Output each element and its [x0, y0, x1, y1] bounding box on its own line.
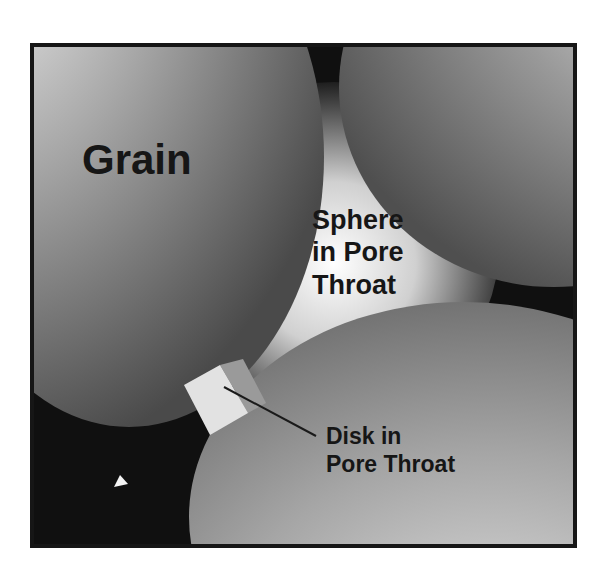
disk-label: Disk in Pore Throat	[326, 423, 455, 478]
grain-label: Grain	[82, 137, 192, 182]
diagram-frame: Grain Sphere in Pore Throat Disk in Pore…	[30, 43, 577, 548]
pore-scene	[34, 47, 577, 548]
sphere-label: Sphere in Pore Throat	[312, 204, 404, 301]
triangle-particle-icon	[114, 475, 128, 487]
